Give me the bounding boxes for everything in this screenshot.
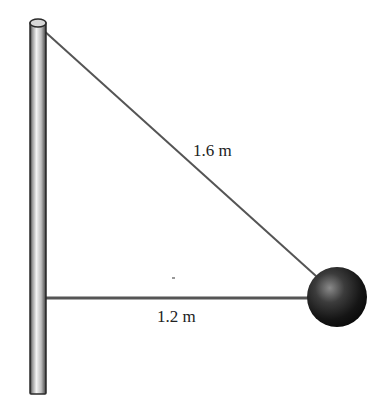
ball [307, 267, 367, 327]
diagonal-length-label: 1.6 m [193, 141, 232, 161]
diagram-canvas [0, 0, 388, 411]
diagonal-string [42, 29, 316, 276]
speck-artifact [172, 277, 175, 279]
horizontal-length-label: 1.2 m [157, 307, 196, 327]
pole [30, 19, 46, 394]
